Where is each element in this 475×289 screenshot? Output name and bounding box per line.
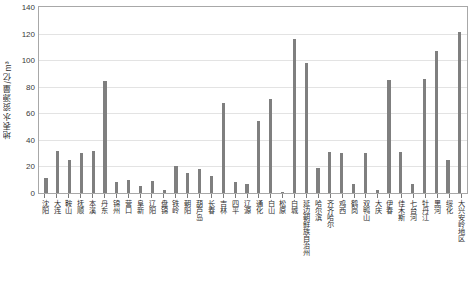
bar-slot [158,7,170,193]
bar-slot [395,7,407,193]
y-axis-tick-label: 120 [22,29,35,38]
x-axis-tick-label: 大庆 [374,200,381,214]
bar [151,181,154,193]
x-axis-tick-mark [187,194,188,198]
bar-slot [324,7,336,193]
bar [269,99,272,193]
x-axis-tick-mark [128,194,129,198]
bar-slot [336,7,348,193]
y-axis-tick-label: 80 [26,82,35,91]
x-axis-category: 丹东 [98,194,110,289]
bar [257,121,260,193]
bar-slot [359,7,371,193]
y-axis-tick-label: 140 [22,3,35,12]
bar-slot [442,7,454,193]
x-axis-category: 辽源 [241,194,253,289]
x-axis-tick-label: 辽源 [243,200,250,214]
x-axis-tick-label: 白城 [291,200,298,214]
bar [411,184,414,193]
bar-slot [419,7,431,193]
bar [68,160,71,193]
bar [186,173,189,193]
y-axis-tick-label: 20 [26,162,35,171]
bar [387,80,390,193]
y-axis-tick-label: 100 [22,56,35,65]
x-axis-category: 辽阳 [146,194,158,289]
x-axis-tick-label: 双鸭山 [362,200,369,221]
bar-slot [75,7,87,193]
bar-slot [383,7,395,193]
bar [376,190,379,193]
x-axis-tick-label: 营口 [124,200,131,214]
x-axis-tick-label: 黑河 [434,200,441,214]
bar-slot [52,7,64,193]
x-axis-category: 葫芦岛 [194,194,206,289]
x-axis-tick-mark [413,194,414,198]
bar-slot [111,7,123,193]
x-axis-category: 大庆 [372,194,384,289]
bar-slot [87,7,99,193]
bar-slot [229,7,241,193]
bar-slot [407,7,419,193]
x-axis-tick-label: 松原 [279,200,286,214]
bar [245,184,248,193]
bar [139,186,142,193]
bar [56,151,59,194]
bar-slot [64,7,76,193]
x-axis-category: 营口 [122,194,134,289]
x-axis-tick-label: 绥化 [446,200,453,214]
bar [103,81,106,193]
x-axis-tick-label: 四平 [231,200,238,214]
bar [316,168,319,193]
x-axis-category: 绥化 [443,194,455,289]
x-axis-tick-mark [377,194,378,198]
x-axis-category: 锦州 [110,194,122,289]
x-axis-tick-mark [235,194,236,198]
x-axis-tick-label: 佳木斯 [398,200,405,221]
bar [80,153,83,193]
x-axis-tick-label: 大兴安岭地区 [457,200,464,242]
x-axis-tick-label: 延边朝鲜族自治州 [303,200,310,256]
bar-slot [182,7,194,193]
x-axis-tick-mark [449,194,450,198]
x-axis-tick-mark [294,194,295,198]
x-axis-category: 铁岭 [170,194,182,289]
x-axis-category: 白城 [289,194,301,289]
bar [127,180,130,193]
x-axis-tick-mark [211,194,212,198]
x-axis-tick-label: 阜新 [136,200,143,214]
x-axis-tick-mark [354,194,355,198]
bar-slot [40,7,52,193]
bar-slot [170,7,182,193]
x-axis-tick-mark [306,194,307,198]
x-axis-tick-mark [163,194,164,198]
y-axis-title-text: 地表水资源量/亿m³ [2,61,14,139]
x-axis-tick-label: 七台河 [410,200,417,221]
bar-slot [99,7,111,193]
bar [352,184,355,193]
x-axis-category: 朝阳 [182,194,194,289]
x-axis-tick-label: 铁岭 [172,200,179,214]
x-axis-category: 哈尔滨 [312,194,324,289]
x-axis-tick-mark [247,194,248,198]
bar [163,190,166,193]
x-axis-tick-mark [56,194,57,198]
y-axis-tick-labels: 020406080100120140 [14,0,38,200]
x-axis-tick-label: 抚顺 [77,200,84,214]
x-axis-tick-mark [223,194,224,198]
bar-slot [194,7,206,193]
x-axis-tick-label: 丹东 [101,200,108,214]
x-axis-tick-mark [80,194,81,198]
x-axis-tick-label: 大连 [53,200,60,214]
x-axis-category: 阜新 [134,194,146,289]
x-axis-tick-label: 朝阳 [184,200,191,214]
x-axis-category: 七台河 [408,194,420,289]
x-axis-tick-mark [44,194,45,198]
bar-slot [312,7,324,193]
x-axis-tick-mark [151,194,152,198]
bar-slot [300,7,312,193]
x-axis-tick-mark [437,194,438,198]
bar-slot [454,7,466,193]
x-axis-category: 大兴安岭地区 [455,194,467,289]
x-axis-tick-label: 白山 [267,200,274,214]
